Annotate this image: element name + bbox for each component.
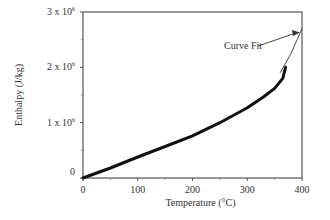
x-tick-label: 200 bbox=[185, 184, 200, 195]
x-tick-label: 100 bbox=[130, 184, 145, 195]
curve-fit-label: Curve Fit bbox=[224, 40, 262, 51]
y-axis-title: Enthalpy (J/kg) bbox=[13, 64, 25, 126]
plot-frame bbox=[83, 12, 302, 178]
y-tick-label: 1 x 106 bbox=[47, 117, 75, 128]
y-tick-label: 2 x 106 bbox=[47, 61, 75, 72]
enthalpy-chart: 010020030040001 x 1062 x 1063 x 106Tempe… bbox=[0, 0, 330, 220]
plot-area: 010020030040001 x 1062 x 1063 x 106Tempe… bbox=[13, 6, 310, 209]
y-tick-label: 3 x 106 bbox=[47, 6, 75, 17]
annotation-arrow-line bbox=[258, 34, 294, 46]
x-tick-label: 400 bbox=[295, 184, 310, 195]
data-curve bbox=[83, 67, 286, 178]
x-axis-title: Temperature (°C) bbox=[165, 197, 235, 209]
y-tick-label: 0 bbox=[70, 166, 75, 177]
fit-curve bbox=[280, 29, 302, 73]
x-tick-label: 300 bbox=[240, 184, 255, 195]
x-tick-label: 0 bbox=[81, 184, 86, 195]
